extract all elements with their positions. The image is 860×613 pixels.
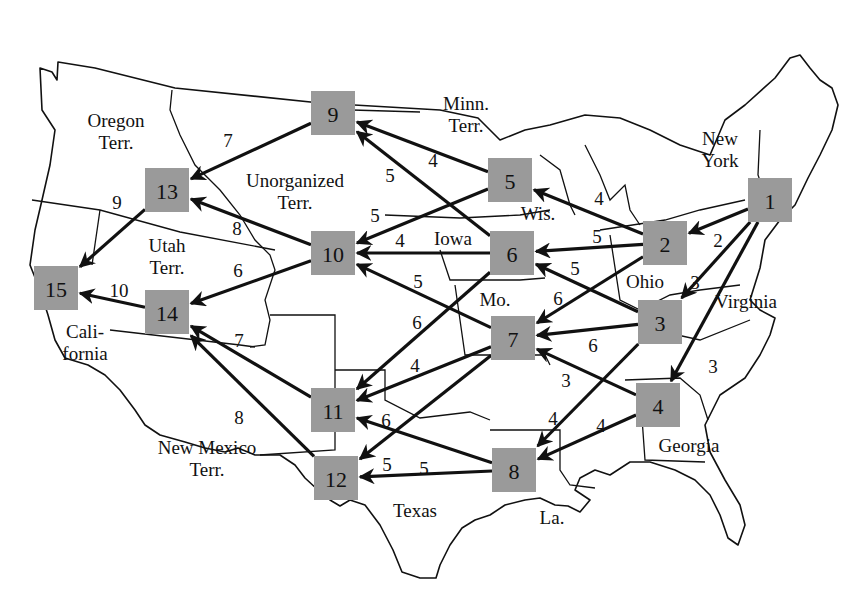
edge-weight-6-11: 6	[412, 312, 422, 333]
node-label: 14	[156, 301, 178, 326]
region-label-iowa: Iowa	[434, 228, 473, 249]
region-label-line: Cali-	[66, 321, 104, 342]
edge-weight-3-6: 5	[570, 258, 580, 279]
node-13: 13	[145, 168, 189, 212]
node-label: 13	[156, 179, 178, 204]
edge-weight-1-4: 3	[708, 356, 718, 377]
edge-weight-2-7: 6	[553, 288, 563, 309]
node-8: 8	[492, 448, 536, 492]
region-label-line: York	[701, 150, 739, 171]
weights-layer: 23345656434455465456578678910	[110, 130, 723, 479]
edge-2-to-6	[536, 244, 643, 251]
region-label-missouri: Mo.	[479, 289, 510, 310]
edge-11-to-14	[191, 326, 311, 397]
region-label-line: New Mexico	[158, 437, 257, 458]
node-14: 14	[145, 290, 189, 334]
region-label-line: Wis.	[521, 203, 556, 224]
edge-7-to-10	[357, 264, 491, 327]
node-11: 11	[311, 388, 355, 432]
edge-7-to-11	[357, 347, 491, 401]
node-label: 2	[660, 232, 671, 257]
region-label-line: Terr.	[277, 192, 312, 213]
region-label-line: Terr.	[98, 132, 133, 153]
node-label: 11	[322, 399, 343, 424]
edge-weight-2-6: 5	[592, 226, 602, 247]
region-label-line: fornia	[62, 343, 108, 364]
node-2: 2	[643, 221, 687, 265]
edge-weight-4-7: 3	[561, 370, 571, 391]
region-label-line: Iowa	[434, 228, 473, 249]
node-label: 1	[765, 189, 776, 214]
edge-weight-5-9: 4	[428, 150, 438, 171]
region-label-virginia: Virginia	[715, 291, 777, 312]
edge-weight-13-15: 9	[112, 192, 122, 213]
node-label: 10	[322, 242, 344, 267]
region-label-new-york: NewYork	[701, 128, 739, 171]
node-label: 3	[655, 311, 666, 336]
node-label: 12	[325, 467, 347, 492]
region-label-line: Terr.	[149, 257, 184, 278]
edge-weight-1-3: 3	[690, 272, 700, 293]
edge-10-to-14	[191, 261, 311, 304]
region-label-utah: UtahTerr.	[149, 235, 186, 278]
edge-weight-8-11: 6	[381, 410, 391, 431]
region-label-line: Virginia	[715, 291, 777, 312]
edge-4-to-7	[537, 349, 636, 395]
region-label-minnesota: Minn.Terr.	[443, 93, 489, 136]
node-label: 8	[509, 459, 520, 484]
region-label-line: Oregon	[88, 110, 145, 131]
region-label-line: Minn.	[443, 93, 489, 114]
network-map: 23345656434455465456578678910 1234567891…	[0, 0, 860, 613]
edge-weight-6-9: 5	[385, 165, 395, 186]
edge-weight-10-14: 6	[233, 260, 243, 281]
region-label-line: New	[702, 128, 738, 149]
node-1: 1	[748, 178, 792, 222]
region-label-oregon: OregonTerr.	[88, 110, 145, 153]
edge-weight-7-11: 4	[410, 355, 420, 376]
node-15: 15	[34, 266, 78, 310]
edge-weight-9-13: 7	[223, 130, 233, 151]
edge-weight-1-2: 2	[713, 230, 723, 251]
region-label-wisconsin: Wis.	[521, 203, 556, 224]
edge-weight-7-12: 5	[382, 454, 392, 475]
edge-weight-14-15: 10	[110, 280, 129, 301]
edge-weight-3-8: 4	[548, 408, 558, 429]
edge-weight-6-10: 4	[395, 230, 405, 251]
edge-3-to-8	[538, 344, 639, 446]
node-7: 7	[491, 316, 535, 360]
edge-weight-2-5: 4	[594, 188, 604, 209]
node-label: 9	[328, 102, 339, 127]
node-label: 4	[653, 394, 664, 419]
region-label-unorganized: UnorganizedTerr.	[246, 170, 344, 213]
edge-weight-5-10: 5	[370, 205, 380, 226]
node-6: 6	[490, 231, 534, 275]
node-4: 4	[636, 383, 680, 427]
node-9: 9	[311, 91, 355, 135]
edge-weight-3-7: 6	[588, 335, 598, 356]
node-label: 7	[508, 327, 519, 352]
node-label: 6	[507, 242, 518, 267]
edge-weight-4-8: 4	[596, 415, 606, 436]
edge-13-to-15	[80, 209, 145, 266]
edge-weight-8-12: 5	[419, 458, 429, 479]
region-label-line: Terr.	[189, 459, 224, 480]
node-12: 12	[314, 456, 358, 500]
node-3: 3	[638, 300, 682, 344]
region-label-line: Ohio	[626, 271, 664, 292]
region-label-line: Utah	[149, 235, 186, 256]
edge-8-to-11	[357, 418, 492, 463]
node-label: 5	[505, 169, 516, 194]
region-label-ohio: Ohio	[626, 271, 664, 292]
node-5: 5	[488, 158, 532, 202]
region-label-new-mexico: New MexicoTerr.	[158, 437, 257, 480]
edge-weight-11-14: 7	[234, 330, 244, 351]
edge-weight-7-10: 5	[413, 271, 423, 292]
region-label-line: Terr.	[448, 115, 483, 136]
edge-weight-12-14: 8	[234, 407, 244, 428]
region-label-line: Georgia	[659, 435, 720, 456]
node-label: 15	[45, 277, 67, 302]
region-label-california: Cali-fornia	[62, 321, 108, 364]
region-label-line: Mo.	[479, 289, 510, 310]
region-label-line: La.	[540, 507, 565, 528]
region-label-louisiana: La.	[540, 507, 565, 528]
